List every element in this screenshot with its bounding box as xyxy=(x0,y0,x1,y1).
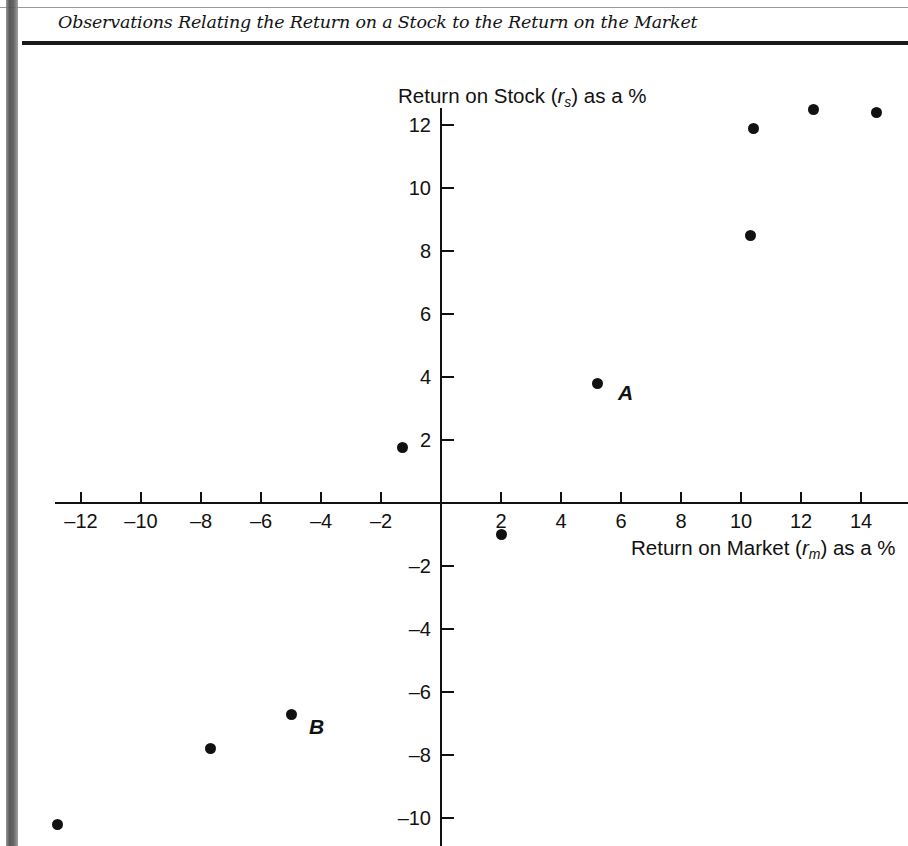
y-axis-tick xyxy=(442,376,454,378)
data-point xyxy=(871,107,882,118)
x-axis-tick-label: –8 xyxy=(190,510,212,533)
data-point xyxy=(397,442,408,453)
data-point xyxy=(52,819,63,830)
x-axis-tick xyxy=(740,492,742,503)
x-axis-tick xyxy=(380,492,382,503)
x-axis-tick xyxy=(620,492,622,503)
y-axis-tick xyxy=(442,691,454,693)
figure-page: Observations Relating the Return on a St… xyxy=(0,0,908,846)
x-axis-tick-label: 10 xyxy=(730,510,752,533)
data-point xyxy=(592,378,603,389)
y-axis-tick xyxy=(442,250,454,252)
x-axis-tick-label: 14 xyxy=(850,510,872,533)
x-axis-tick xyxy=(800,492,802,503)
x-axis-tick-label: 4 xyxy=(555,510,566,533)
x-axis-tick xyxy=(680,492,682,503)
data-point xyxy=(745,230,756,241)
x-axis-tick xyxy=(860,492,862,503)
y-axis-tick-label: –10 xyxy=(365,807,431,830)
x-axis-tick-label: –12 xyxy=(64,510,97,533)
x-axis-title: Return on Market (rm) as a % xyxy=(631,536,896,560)
y-axis-tick xyxy=(442,124,454,126)
x-axis-tick xyxy=(260,492,262,503)
x-axis-tick-label: –6 xyxy=(250,510,272,533)
x-axis-tick xyxy=(320,492,322,503)
data-point xyxy=(808,104,819,115)
x-axis-tick-label: –2 xyxy=(370,510,392,533)
y-axis-title: Return on Stock (rs) as a % xyxy=(398,84,647,108)
y-axis-tick xyxy=(442,565,454,567)
x-axis-line xyxy=(55,502,908,504)
x-axis-tick-label: –4 xyxy=(310,510,332,533)
y-axis-tick-label: 12 xyxy=(365,114,431,137)
axis-variable-subscript: m xyxy=(809,546,821,562)
y-axis-tick xyxy=(442,439,454,441)
x-axis-tick-label: 6 xyxy=(615,510,626,533)
x-axis-tick xyxy=(560,492,562,503)
data-point-label: A xyxy=(618,381,633,405)
axis-variable-subscript: s xyxy=(564,94,571,110)
data-point-label: B xyxy=(309,715,324,739)
x-axis-tick xyxy=(80,492,82,503)
data-point xyxy=(205,743,216,754)
scatter-plot: Return on Stock (rs) as a % Return on Ma… xyxy=(0,0,908,846)
data-point xyxy=(286,709,297,720)
y-axis-line xyxy=(440,108,442,846)
y-axis-tick-label: –4 xyxy=(365,618,431,641)
y-axis-tick xyxy=(442,187,454,189)
x-axis-tick xyxy=(500,492,502,503)
x-axis-tick xyxy=(140,492,142,503)
y-axis-tick-label: –8 xyxy=(365,744,431,767)
y-axis-tick xyxy=(442,313,454,315)
x-axis-tick-label: 12 xyxy=(790,510,812,533)
y-axis-tick-label: 4 xyxy=(365,366,431,389)
y-axis-tick-label: –6 xyxy=(365,681,431,704)
y-axis-tick-label: 8 xyxy=(365,240,431,263)
x-axis-tick-label: 8 xyxy=(675,510,686,533)
y-axis-tick xyxy=(442,817,454,819)
axis-variable-symbol: r xyxy=(802,536,809,559)
y-axis-tick xyxy=(442,628,454,630)
y-axis-tick-label: 6 xyxy=(365,303,431,326)
y-axis-tick-label: –2 xyxy=(365,555,431,578)
y-axis-tick xyxy=(442,754,454,756)
data-point xyxy=(748,123,759,134)
x-axis-tick-label: –10 xyxy=(124,510,157,533)
data-point xyxy=(496,529,507,540)
y-axis-tick-label: 10 xyxy=(365,177,431,200)
x-axis-tick xyxy=(200,492,202,503)
